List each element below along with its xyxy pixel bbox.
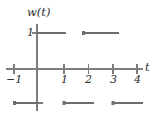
x-tick-label-1: 1 [61,74,68,85]
x-tick-label-4: 4 [134,74,141,85]
y-axis-label: w(t) [27,7,50,19]
x-tick-label-minus-1: −1 [6,74,22,85]
segment-neg-c-left-marker [112,101,115,105]
x-tick-label-3: 3 [110,74,117,85]
x-axis-label: t [145,62,149,73]
segment-neg-a-left-marker [13,101,16,105]
segment-neg-b-left-marker [63,101,66,105]
signal-plot-figure: w(t) t 1 −1 1 2 3 4 [0,0,157,118]
segment-plus1-b-left-marker [82,31,85,35]
y-tick-label-1: 1 [27,27,34,38]
plot-canvas [0,0,157,118]
x-tick-label-2: 2 [85,74,92,85]
